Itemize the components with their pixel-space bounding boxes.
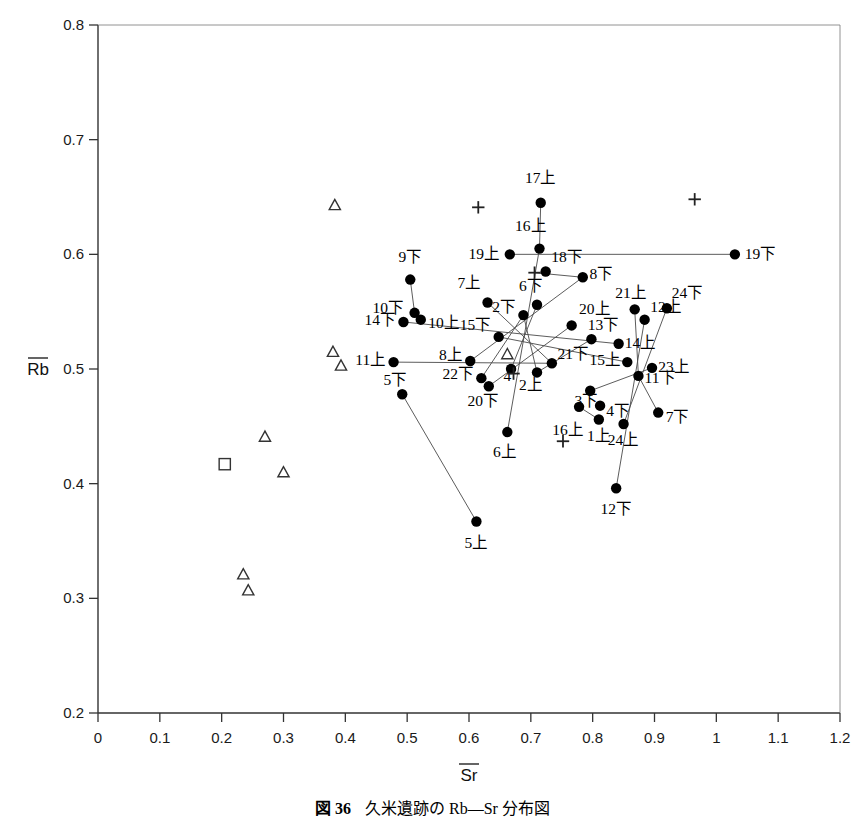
- data-point-circle[interactable]: [566, 320, 576, 330]
- data-point-label: 13下: [588, 316, 620, 333]
- y-tick-label: 0.2: [63, 704, 84, 721]
- data-point-label: 8上: [439, 346, 463, 363]
- data-point-circle[interactable]: [540, 266, 550, 276]
- x-tick-label: 0.4: [335, 729, 356, 746]
- y-tick-label: 0.4: [63, 475, 84, 492]
- data-point-label: 2上: [519, 376, 543, 393]
- data-point-label: 24上: [608, 431, 640, 448]
- data-point-label: 16上: [552, 421, 584, 438]
- x-tick-label: 0: [94, 729, 102, 746]
- data-point-triangle[interactable]: [278, 467, 289, 477]
- data-point-triangle[interactable]: [502, 348, 513, 358]
- data-point-label: 5下: [384, 371, 408, 388]
- data-point-circle[interactable]: [653, 407, 663, 417]
- data-point-label: 15下: [460, 316, 492, 333]
- data-point-label: 2下: [492, 298, 516, 315]
- data-point-label: 16上: [515, 217, 547, 234]
- x-tick-label: 0.2: [211, 729, 232, 746]
- data-point-label: 12下: [600, 500, 632, 517]
- data-point-triangle[interactable]: [327, 346, 338, 356]
- data-point-circle[interactable]: [405, 274, 415, 284]
- data-point-label: 14上: [625, 334, 657, 351]
- data-point-circle[interactable]: [574, 402, 584, 412]
- data-point-circle[interactable]: [578, 272, 588, 282]
- data-point-circle[interactable]: [518, 310, 528, 320]
- data-point-triangle[interactable]: [259, 431, 270, 441]
- data-point-circle[interactable]: [594, 414, 604, 424]
- data-point-circle[interactable]: [613, 339, 623, 349]
- data-point-label: 21上: [615, 284, 647, 301]
- data-point-circle[interactable]: [547, 358, 557, 368]
- data-point-label: 20上: [579, 300, 611, 317]
- data-point-circle[interactable]: [493, 332, 503, 342]
- data-point-triangle[interactable]: [335, 360, 346, 370]
- caption-number: 図 36: [315, 800, 351, 817]
- y-tick-label: 0.3: [63, 589, 84, 606]
- x-tick-label: 0.1: [149, 729, 170, 746]
- data-point-label: 4: [503, 367, 511, 384]
- connector-line: [590, 368, 652, 391]
- data-point-circle[interactable]: [532, 300, 542, 310]
- data-point-circle[interactable]: [476, 373, 486, 383]
- x-tick-label: 0.6: [459, 729, 480, 746]
- data-point-triangle[interactable]: [329, 199, 340, 209]
- data-point-circle[interactable]: [536, 198, 546, 208]
- data-point-circle[interactable]: [534, 243, 544, 253]
- data-point-circle[interactable]: [586, 334, 596, 344]
- data-point-triangle[interactable]: [243, 585, 254, 595]
- data-point-label: 7下: [666, 408, 690, 425]
- data-point-circle[interactable]: [398, 317, 408, 327]
- data-point-label: 22下: [442, 365, 474, 382]
- data-point-label: 17上: [525, 169, 557, 186]
- data-point-circle[interactable]: [730, 249, 740, 259]
- data-point-label: 21下: [557, 345, 589, 362]
- x-tick-label: 0.9: [644, 729, 665, 746]
- data-point-label: 19下: [745, 245, 777, 262]
- data-point-circle[interactable]: [471, 516, 481, 526]
- data-point-label: 20下: [467, 392, 499, 409]
- x-tick-label: 0.8: [582, 729, 603, 746]
- data-point-label: 10上: [428, 314, 460, 331]
- data-point-label: 24下: [672, 284, 704, 301]
- data-point-label: 9下: [398, 248, 422, 265]
- data-point-circle[interactable]: [662, 303, 672, 313]
- data-point-circle[interactable]: [484, 381, 494, 391]
- data-point-circle[interactable]: [630, 304, 640, 314]
- y-tick-label: 0.7: [63, 131, 84, 148]
- data-point-label: 11上: [355, 351, 386, 368]
- x-tick-label: 1.1: [768, 729, 789, 746]
- data-point-label: 1上: [587, 427, 611, 444]
- data-point-circle[interactable]: [397, 389, 407, 399]
- y-tick-label: 0.5: [63, 360, 84, 377]
- data-point-label: 15上: [590, 351, 622, 368]
- data-point-circle[interactable]: [618, 419, 628, 429]
- data-point-label: 5上: [465, 534, 489, 551]
- data-point-label: 7上: [458, 274, 482, 291]
- data-point-label: 11下: [645, 369, 676, 386]
- x-tick-label: 1: [712, 729, 720, 746]
- data-point-label: 18下: [551, 248, 583, 265]
- y-tick-label: 0.6: [63, 245, 84, 262]
- data-point-label: 6上: [493, 443, 517, 460]
- data-point-circle[interactable]: [502, 427, 512, 437]
- data-point-triangle[interactable]: [238, 569, 249, 579]
- scatter-plot: 0.20.30.40.50.60.70.800.10.20.30.40.50.6…: [0, 0, 865, 790]
- data-point-square[interactable]: [219, 459, 230, 470]
- data-point-circle[interactable]: [595, 400, 605, 410]
- data-point-label: 8下: [590, 265, 614, 282]
- data-point-label: 14下: [365, 311, 397, 328]
- figure-caption: 図 36 久米遺跡の Rb—Sr 分布図: [0, 795, 865, 819]
- data-point-circle[interactable]: [633, 371, 643, 381]
- data-point-circle[interactable]: [611, 483, 621, 493]
- x-tick-label: 1.2: [830, 729, 851, 746]
- data-point-circle[interactable]: [639, 314, 649, 324]
- x-tick-label: 0.5: [397, 729, 418, 746]
- x-tick-label: 0.7: [520, 729, 541, 746]
- data-point-circle[interactable]: [505, 249, 515, 259]
- data-point-circle[interactable]: [482, 297, 492, 307]
- data-point-label: 6下: [519, 277, 543, 294]
- data-point-circle[interactable]: [416, 314, 426, 324]
- data-point-circle[interactable]: [622, 357, 632, 367]
- data-point-label: 4下: [606, 402, 630, 419]
- data-point-circle[interactable]: [388, 357, 398, 367]
